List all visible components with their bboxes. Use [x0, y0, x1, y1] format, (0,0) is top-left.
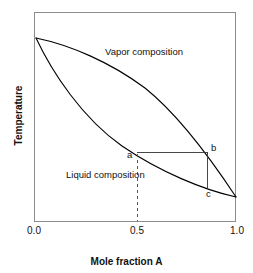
x-tick-label-0: 0.0 [14, 225, 54, 237]
x-tick-label-2: 1.0 [217, 225, 253, 237]
x-tick-label-1: 0.5 [117, 225, 157, 237]
point-a-label: a [127, 150, 132, 160]
liquid-composition-label: Liquid composition [66, 169, 145, 180]
x-axis-title: Mole fraction A [0, 256, 253, 267]
phase-diagram-figure: Vapor composition Liquid composition a b… [0, 0, 253, 273]
point-c-label: c [206, 189, 211, 199]
point-b-label: b [211, 143, 216, 153]
y-axis-title: Temperature [13, 56, 24, 176]
vapor-composition-label: Vapor composition [105, 46, 183, 57]
